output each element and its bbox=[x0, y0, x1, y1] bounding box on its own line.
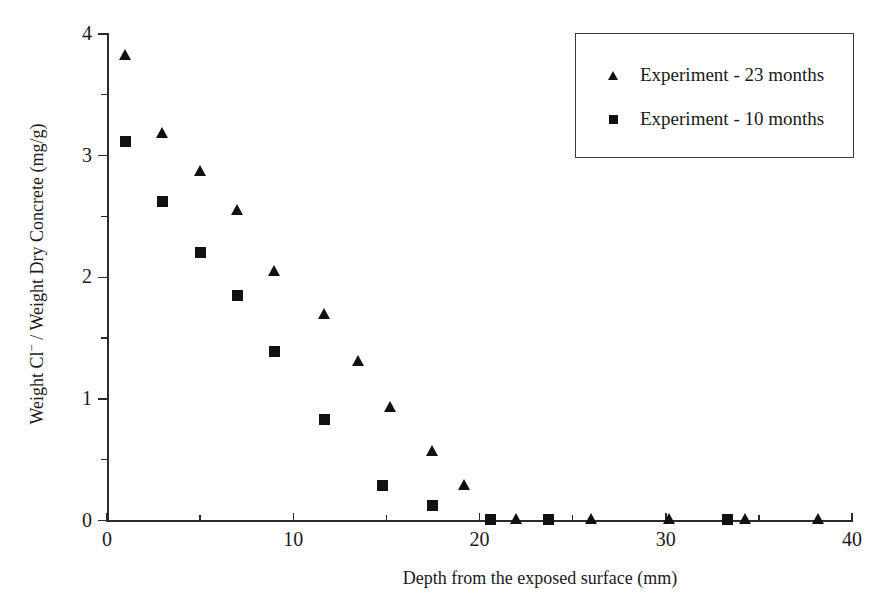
x-tick-label: 20 bbox=[457, 528, 503, 550]
y-axis-title: Weight Cl− / Weight Dry Concrete (mg/g) bbox=[24, 64, 48, 484]
x-tick-label: 10 bbox=[270, 528, 316, 550]
data-point-triangle bbox=[585, 513, 597, 524]
data-point-square bbox=[232, 290, 243, 301]
data-point-square bbox=[722, 514, 733, 525]
data-point-square bbox=[195, 247, 206, 258]
data-point-square bbox=[319, 414, 330, 425]
data-point-triangle bbox=[663, 513, 675, 524]
y-axis-title-post: / Weight Dry Concrete (mg/g) bbox=[27, 123, 47, 344]
x-tick-label: 30 bbox=[643, 528, 689, 550]
data-point-triangle bbox=[231, 204, 243, 215]
data-point-triangle bbox=[352, 355, 364, 366]
y-tick-label: 2 bbox=[66, 266, 92, 286]
y-tick-label: 0 bbox=[66, 510, 92, 530]
y-tick-label: 1 bbox=[66, 388, 92, 408]
data-point-triangle bbox=[156, 127, 168, 138]
data-point-square bbox=[543, 514, 554, 525]
legend-marker-triangle-icon bbox=[602, 71, 624, 80]
data-point-triangle bbox=[739, 513, 751, 524]
data-point-square bbox=[427, 500, 438, 511]
legend-marker-square-icon bbox=[602, 115, 624, 124]
legend-label-0: Experiment - 23 months bbox=[640, 64, 824, 86]
data-point-triangle bbox=[318, 308, 330, 319]
legend-label-1: Experiment - 10 months bbox=[640, 108, 824, 130]
legend-item-0: Experiment - 23 months bbox=[602, 64, 824, 86]
data-point-triangle bbox=[510, 513, 522, 524]
x-axis-title: Depth from the exposed surface (mm) bbox=[300, 568, 780, 589]
data-point-square bbox=[269, 346, 280, 357]
data-point-triangle bbox=[426, 445, 438, 456]
y-tick-label: 4 bbox=[66, 23, 92, 43]
data-point-triangle bbox=[268, 265, 280, 276]
chart-legend: Experiment - 23 months Experiment - 10 m… bbox=[575, 33, 854, 158]
y-axis-title-superscript: − bbox=[24, 344, 39, 351]
x-tick-label: 40 bbox=[829, 528, 875, 550]
y-tick-label: 3 bbox=[66, 145, 92, 165]
chart-figure: 01234010203040 Weight Cl− / Weight Dry C… bbox=[0, 0, 886, 611]
legend-item-1: Experiment - 10 months bbox=[602, 108, 824, 130]
data-point-square bbox=[157, 196, 168, 207]
data-point-triangle bbox=[384, 401, 396, 412]
data-point-triangle bbox=[458, 479, 470, 490]
x-tick-label: 0 bbox=[84, 528, 130, 550]
data-point-square bbox=[377, 480, 388, 491]
data-point-triangle bbox=[194, 165, 206, 176]
data-point-triangle bbox=[119, 49, 131, 60]
data-point-triangle bbox=[812, 513, 824, 524]
y-axis-title-pre: Weight Cl bbox=[27, 351, 47, 424]
data-point-square bbox=[485, 514, 496, 525]
data-point-square bbox=[120, 136, 131, 147]
